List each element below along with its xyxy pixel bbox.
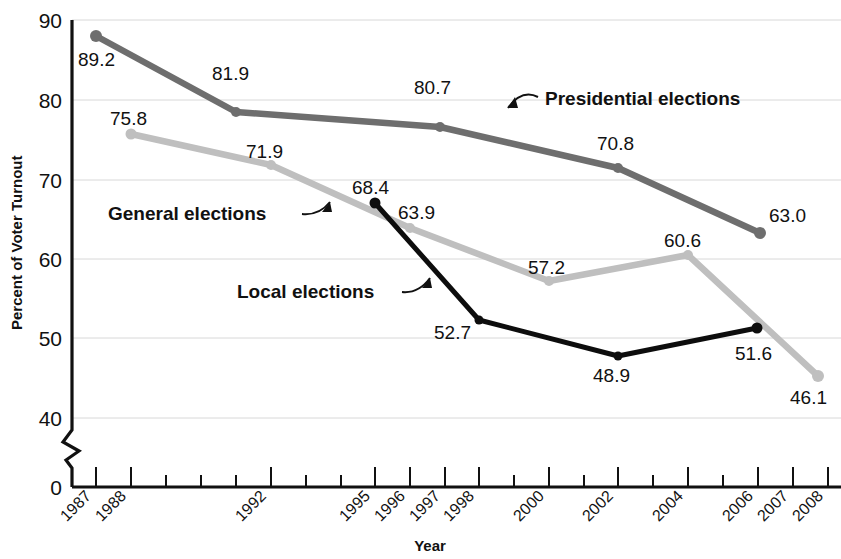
x-label-2004: 2004 (649, 487, 686, 524)
x-axis-title: Year (414, 537, 446, 554)
x-label-1987: 1987 (57, 487, 94, 524)
value-label: 57.2 (528, 257, 565, 278)
y-tick-40: 40 (39, 407, 62, 430)
value-label: 52.7 (434, 322, 471, 343)
general-elections-line (131, 134, 818, 376)
value-label: 70.8 (597, 133, 634, 154)
data-point (126, 129, 137, 140)
y-axis (63, 20, 79, 487)
y-tick-0: 0 (50, 476, 62, 499)
y-tick-60: 60 (39, 248, 62, 271)
data-point (683, 250, 693, 260)
y-axis-title: Percent of Voter Turnout (8, 156, 25, 330)
presidential-value-labels: 89.2 81.9 80.7 70.8 63.0 (78, 49, 806, 226)
data-point (231, 107, 241, 117)
x-label-1998: 1998 (440, 487, 477, 524)
arrow-head-icon (422, 278, 432, 288)
x-label-1996: 1996 (371, 487, 408, 524)
value-label: 71.9 (246, 141, 283, 162)
annotation-presidential: Presidential elections (508, 88, 740, 109)
annotation-label: General elections (108, 203, 266, 224)
x-label-1992: 1992 (232, 487, 269, 524)
y-tick-50: 50 (39, 327, 62, 350)
x-label-2007: 2007 (754, 487, 791, 524)
chart-svg: 90 80 70 60 50 40 0 Percent of Voter Tur… (0, 0, 841, 559)
x-label-1995: 1995 (336, 487, 373, 524)
x-label-2002: 2002 (579, 487, 616, 524)
series-general-elections (126, 129, 825, 383)
y-tick-labels: 90 80 70 60 50 40 0 (39, 9, 62, 499)
x-label-2008: 2008 (789, 487, 826, 524)
data-point (614, 352, 623, 361)
value-label: 60.6 (664, 230, 701, 251)
data-point (752, 323, 763, 334)
value-label: 51.6 (735, 343, 772, 364)
voter-turnout-chart: 90 80 70 60 50 40 0 Percent of Voter Tur… (0, 0, 841, 559)
annotation-local: Local elections (237, 278, 432, 302)
y-tick-70: 70 (39, 169, 62, 192)
data-point (370, 198, 381, 209)
value-label: 81.9 (212, 63, 249, 84)
annotation-label: Presidential elections (545, 88, 740, 109)
value-label: 63.9 (398, 202, 435, 223)
x-label-2006: 2006 (719, 487, 756, 524)
data-point (613, 163, 623, 173)
x-label-1997: 1997 (406, 487, 443, 524)
data-point (812, 370, 824, 382)
arrow-head-icon (322, 202, 332, 212)
x-label-2000: 2000 (510, 487, 547, 524)
x-tick-labels: 1987 1988 1992 1995 1996 1997 1998 2000 … (57, 487, 826, 524)
y-tick-80: 80 (39, 89, 62, 112)
value-label: 46.1 (790, 387, 827, 408)
data-point (90, 30, 102, 42)
data-point (475, 316, 484, 325)
value-label: 89.2 (78, 49, 115, 70)
data-point (754, 227, 766, 239)
x-label-1988: 1988 (92, 487, 129, 524)
x-axis-ticks (96, 467, 828, 487)
y-tick-90: 90 (39, 9, 62, 32)
value-label: 63.0 (769, 205, 806, 226)
value-label: 80.7 (414, 77, 451, 98)
data-point (405, 223, 415, 233)
annotation-label: Local elections (237, 281, 374, 302)
value-label: 75.8 (110, 108, 147, 129)
data-point (435, 122, 445, 132)
value-label: 48.9 (593, 365, 630, 386)
annotation-general: General elections (108, 202, 332, 224)
value-label: 68.4 (352, 177, 389, 198)
